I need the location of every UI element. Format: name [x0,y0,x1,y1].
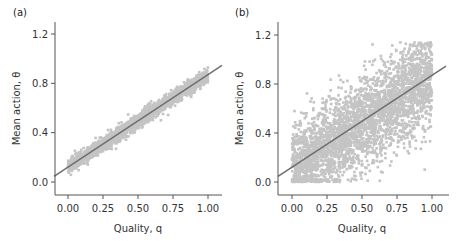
panel-b: (b)0.00.40.81.20.000.250.500.751.00Quali… [223,0,453,241]
panel-label: (b) [235,7,249,18]
x-tick-label: 0.75 [162,203,184,214]
y-tick-label: 0.4 [32,127,48,138]
panel-label: (a) [13,7,27,18]
x-tick-label: 0.25 [316,203,338,214]
scatter-plot-b: (b)0.00.40.81.20.000.250.500.751.00Quali… [223,0,459,241]
y-tick-label: 1.2 [32,29,48,40]
x-tick-label: 1.00 [421,203,443,214]
y-tick-label: 0.0 [255,177,271,188]
x-axis-title: Quality, q [114,223,162,234]
x-tick-label: 0.50 [127,203,149,214]
scatter-points [291,41,434,183]
x-tick-label: 0.00 [281,203,303,214]
x-tick-label: 0.75 [386,203,408,214]
panel-a: (a)0.00.40.81.20.000.250.500.751.00Quali… [0,0,230,241]
y-axis-title: Mean action, θ [11,72,22,146]
x-tick-label: 0.25 [92,203,114,214]
y-tick-label: 0.0 [32,177,48,188]
scatter-plot-a: (a)0.00.40.81.20.000.250.500.751.00Quali… [0,0,230,241]
y-tick-label: 0.8 [32,78,48,89]
y-axis-title: Mean action, θ [234,72,245,146]
x-tick-label: 0.50 [351,203,373,214]
x-axis-title: Quality, q [338,223,386,234]
x-tick-label: 0.00 [57,203,79,214]
y-tick-label: 1.2 [255,30,271,41]
y-tick-label: 0.8 [255,79,271,90]
y-tick-label: 0.4 [255,128,271,139]
x-tick-label: 1.00 [197,203,219,214]
regression-line [54,65,222,176]
